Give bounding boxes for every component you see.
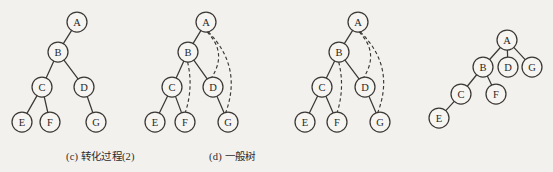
- edge-c-e: [27, 96, 37, 114]
- node-label-g: G: [224, 117, 232, 128]
- tree-node-b: B: [329, 42, 349, 62]
- tree-node-b: B: [473, 57, 493, 77]
- tree-node-c: C: [32, 77, 52, 97]
- node-label-g: G: [92, 117, 100, 128]
- node-label-g: G: [528, 62, 536, 73]
- tree-node-a: A: [348, 12, 368, 32]
- tree-node-g: G: [370, 112, 390, 132]
- tree-node-d: D: [355, 77, 375, 97]
- node-label-c: C: [457, 89, 464, 100]
- edge-b-c: [326, 61, 334, 78]
- edge-b-d: [64, 60, 78, 79]
- tree-node-e: E: [429, 108, 449, 128]
- edge-d-g: [217, 96, 224, 113]
- tree-node-e: E: [12, 112, 32, 132]
- node-label-d: D: [209, 82, 217, 93]
- edge-b-f: [487, 76, 491, 85]
- tree-node-g: G: [218, 112, 238, 132]
- node-label-c: C: [38, 82, 45, 93]
- tree-node-f: F: [486, 84, 506, 104]
- node-label-g: G: [376, 117, 384, 128]
- edge-b-c: [46, 61, 54, 78]
- tree-node-g: G: [522, 57, 542, 77]
- edge-c-f: [326, 96, 333, 113]
- edge-c-f: [175, 96, 181, 112]
- edge-a-g: [514, 47, 525, 59]
- node-label-e: E: [436, 113, 442, 124]
- edge-a-b: [63, 30, 71, 43]
- edge-b-d: [194, 60, 207, 79]
- node-label-c: C: [168, 82, 175, 93]
- dashed-edge-b-f: [185, 62, 190, 112]
- node-label-e: E: [152, 117, 158, 128]
- tree-diagrams-canvas: ABCDEFGABCDEFGABCDEFGABDGCFE: [0, 0, 553, 172]
- node-label-a: A: [503, 35, 511, 46]
- edge-b-c: [467, 75, 476, 86]
- tree-node-f: F: [327, 112, 347, 132]
- node-label-a: A: [354, 17, 362, 28]
- node-label-d: D: [504, 62, 512, 73]
- node-label-e: E: [19, 117, 25, 128]
- node-label-f: F: [47, 117, 53, 128]
- tree-node-a: A: [67, 12, 87, 32]
- tree-panel-a: ABCDEFG: [12, 12, 106, 132]
- edge-c-e: [309, 96, 317, 113]
- edge-c-f: [44, 97, 48, 113]
- tree-panel-c: ABCDEFG: [295, 12, 390, 132]
- edge-d-g: [369, 96, 376, 113]
- node-label-a: A: [73, 17, 81, 28]
- tree-node-c: C: [312, 77, 332, 97]
- tree-node-g: G: [86, 112, 106, 132]
- node-label-b: B: [479, 62, 486, 73]
- node-label-b: B: [184, 47, 191, 58]
- tree-node-d: D: [498, 57, 518, 77]
- edge-c-e: [159, 96, 167, 113]
- node-label-f: F: [182, 117, 188, 128]
- tree-node-e: E: [145, 112, 165, 132]
- node-label-c: C: [318, 82, 325, 93]
- edge-c-e: [446, 101, 454, 110]
- tree-node-d: D: [74, 77, 94, 97]
- tree-panel-d: ABDGCFE: [429, 30, 542, 128]
- dashed-edge-a-d: [359, 32, 371, 77]
- tree-node-a: A: [196, 12, 216, 32]
- tree-node-c: C: [162, 77, 182, 97]
- node-label-f: F: [334, 117, 340, 128]
- edge-b-c: [176, 61, 184, 78]
- caption-panel-c: (c) 转化过程(2): [66, 148, 135, 163]
- node-label-f: F: [493, 89, 499, 100]
- tree-node-d: D: [203, 77, 223, 97]
- tree-node-b: B: [178, 42, 198, 62]
- node-label-b: B: [335, 47, 342, 58]
- dashed-edge-a-g: [360, 32, 384, 112]
- edge-a-b: [344, 30, 352, 43]
- tree-node-c: C: [451, 84, 471, 104]
- tree-node-a: A: [497, 30, 517, 50]
- dashed-edge-b-f: [337, 62, 341, 112]
- edge-b-d: [345, 60, 359, 79]
- tree-panel-b: ABCDEFG: [145, 12, 238, 132]
- node-label-a: A: [202, 17, 210, 28]
- tree-node-f: F: [175, 112, 195, 132]
- edge-d-g: [87, 96, 93, 112]
- tree-node-e: E: [295, 112, 315, 132]
- dashed-edge-a-d: [207, 32, 219, 77]
- caption-panel-d: (d) 一般树: [209, 148, 255, 163]
- edge-a-b: [490, 47, 501, 59]
- tree-node-f: F: [40, 112, 60, 132]
- node-label-e: E: [302, 117, 308, 128]
- tree-node-b: B: [48, 42, 68, 62]
- node-label-d: D: [80, 82, 88, 93]
- node-label-b: B: [54, 47, 61, 58]
- edge-a-b: [193, 31, 201, 44]
- tree-conversion-figure: ABCDEFGABCDEFGABCDEFGABDGCFE (a) 二叉树 (b)…: [0, 0, 553, 172]
- node-label-d: D: [361, 82, 369, 93]
- dashed-edge-a-g: [208, 32, 231, 112]
